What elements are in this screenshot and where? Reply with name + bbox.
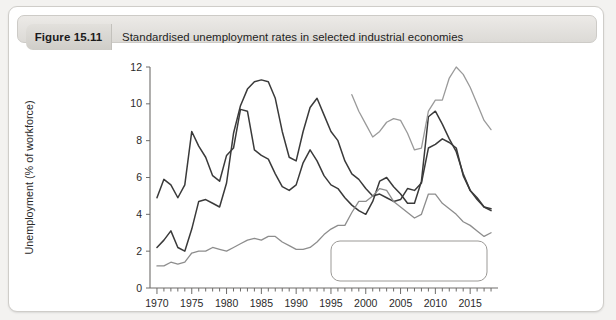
figure-caption-text: Standardised unemployment rates in selec…	[122, 31, 463, 43]
y-tick-label: 0	[136, 282, 142, 294]
legend-box	[331, 241, 487, 281]
line-chart: 024681012Unemployment (% of workforce)19…	[9, 43, 605, 311]
y-tick-label: 6	[136, 171, 142, 183]
x-tick-label: 1985	[250, 297, 274, 309]
x-tick-label: 1975	[180, 297, 204, 309]
figure-panel: Figure 15.11 Standardised unemployment r…	[8, 6, 604, 312]
series-line-usa	[157, 109, 491, 214]
y-tick-label: 4	[136, 208, 142, 220]
x-tick-label: 1970	[145, 297, 169, 309]
x-tick-label: 1980	[215, 297, 239, 309]
chart-plot-area: 024681012Unemployment (% of workforce)19…	[9, 43, 605, 311]
x-tick-label: 2005	[389, 297, 413, 309]
y-axis-title: Unemployment (% of workforce)	[23, 100, 35, 254]
x-tick-label: 2010	[424, 297, 448, 309]
x-tick-label: 1990	[284, 297, 308, 309]
figure-screenshot: Figure 15.11 Standardised unemployment r…	[0, 0, 616, 320]
y-tick-label: 8	[136, 134, 142, 146]
series-line-uk	[157, 80, 491, 251]
y-tick-label: 10	[130, 97, 142, 109]
series-line-eurozone	[352, 67, 491, 150]
y-tick-label: 12	[130, 61, 142, 73]
x-tick-label: 1995	[319, 297, 343, 309]
x-tick-label: 2000	[354, 297, 378, 309]
y-tick-label: 2	[136, 245, 142, 257]
figure-title-bar: Figure 15.11 Standardised unemployment r…	[17, 15, 597, 43]
figure-number-label: Figure 15.11	[35, 31, 103, 43]
x-tick-label: 2015	[458, 297, 482, 309]
